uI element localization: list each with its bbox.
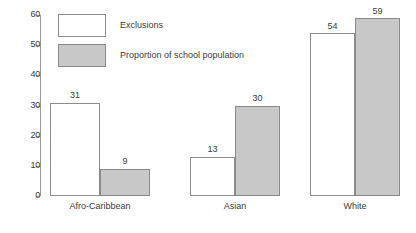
bar-proportion-afro-caribbean[interactable] bbox=[100, 169, 150, 196]
bar-proportion-white[interactable] bbox=[355, 18, 400, 196]
y-axis-tick-label: 0 bbox=[10, 191, 40, 200]
bar-exclusions-asian[interactable] bbox=[190, 157, 235, 196]
legend-swatch-exclusions bbox=[58, 14, 106, 37]
bar-value-exclusions-afro-caribbean: 31 bbox=[50, 91, 100, 100]
bar-value-proportion-afro-caribbean: 9 bbox=[100, 157, 150, 166]
y-axis-tick-label: 10 bbox=[10, 161, 40, 170]
legend-label-proportion: Proportion of school population bbox=[120, 51, 244, 60]
y-axis-tick-label: 50 bbox=[10, 40, 40, 49]
legend-swatch-proportion bbox=[58, 44, 106, 67]
category-label-afro-caribbean: Afro-Caribbean bbox=[50, 201, 150, 211]
bar-exclusions-afro-caribbean[interactable] bbox=[50, 103, 100, 197]
bar-group-white: 54 59 bbox=[310, 15, 400, 196]
bar-proportion-asian[interactable] bbox=[235, 106, 280, 197]
bar-group-asian: 13 30 bbox=[190, 15, 280, 196]
bar-value-exclusions-white: 54 bbox=[310, 22, 355, 31]
y-axis-tick-label: 30 bbox=[10, 101, 40, 110]
plot-area: 31 9 13 30 54 59 bbox=[40, 15, 416, 196]
y-axis-tick-label: 60 bbox=[10, 10, 40, 19]
bar-chart: 60 50 40 30 20 10 0 31 9 13 bbox=[0, 0, 416, 233]
category-label-asian: Asian bbox=[190, 201, 280, 211]
bar-value-proportion-asian: 30 bbox=[235, 94, 280, 103]
bar-value-exclusions-asian: 13 bbox=[190, 145, 235, 154]
bar-exclusions-white[interactable] bbox=[310, 33, 355, 196]
bar-group-afro-caribbean: 31 9 bbox=[50, 15, 150, 196]
y-axis-tick-label: 20 bbox=[10, 131, 40, 140]
y-axis-tick-label: 40 bbox=[10, 70, 40, 79]
legend-label-exclusions: Exclusions bbox=[120, 21, 163, 30]
bar-value-proportion-white: 59 bbox=[355, 7, 400, 16]
category-label-white: White bbox=[310, 201, 400, 211]
